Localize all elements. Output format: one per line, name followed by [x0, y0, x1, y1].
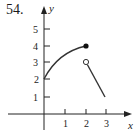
- open-endpoint: [83, 59, 88, 64]
- y-axis-arrow-icon: [41, 6, 47, 14]
- y-tick-3: 3: [33, 57, 38, 68]
- x-axis-label: x: [127, 119, 133, 131]
- closed-endpoint: [83, 43, 88, 48]
- line-piece: [87, 65, 105, 98]
- x-tick-1: 1: [63, 118, 68, 129]
- y-axis-label: y: [48, 2, 54, 14]
- curve-piece: [44, 46, 86, 79]
- x-axis-arrow-icon: [124, 111, 132, 117]
- y-tick-2: 2: [34, 74, 39, 85]
- y-ticks: [44, 29, 50, 97]
- x-tick-2: 2: [84, 118, 89, 129]
- x-axis: [8, 111, 132, 117]
- y-axis: [41, 6, 47, 130]
- x-tick-3: 3: [104, 118, 109, 129]
- y-tick-1: 1: [33, 92, 38, 103]
- function-graph: 1 2 3 1 2 3 4 5 y x: [0, 0, 138, 133]
- y-tick-5: 5: [33, 24, 38, 35]
- y-tick-4: 4: [33, 41, 38, 52]
- x-ticks: [65, 109, 106, 114]
